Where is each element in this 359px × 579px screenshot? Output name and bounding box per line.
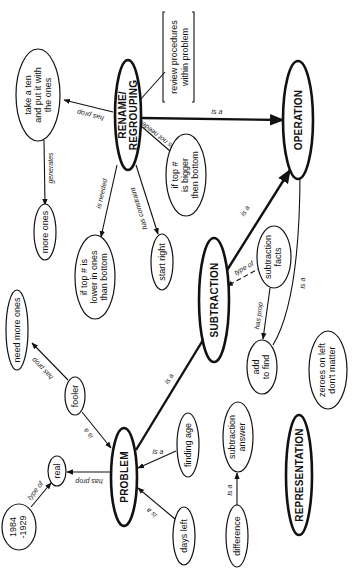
node-subtraction-answer: subtraction answer [223, 402, 253, 472]
node-add-to-find: add to find [247, 340, 277, 394]
edge-sub-facts-add-find [263, 288, 270, 339]
svg-text:fooler: fooler [70, 385, 80, 408]
edge-rename-take-ten [64, 100, 113, 112]
svg-text:PROBLEM: PROBLEM [119, 451, 130, 502]
node-fooler: fooler [65, 377, 85, 415]
node-top-bigger: if top # is bigger then bottom [166, 134, 206, 216]
edge-label-is-a: is a [163, 372, 175, 385]
node-problem: PROBLEM [111, 428, 137, 526]
edge-rename-operation [141, 118, 283, 120]
edge-label-is-a: is a [153, 448, 164, 455]
svg-text:facts: facts [273, 247, 283, 267]
svg-text:lower in ones: lower in ones [89, 250, 99, 304]
svg-text:finding age: finding age [183, 423, 193, 467]
edge-take-ten-more-ones [44, 140, 45, 205]
edge-label-has-prop: has prop [76, 108, 104, 122]
edge-label-is-a: is a [239, 204, 251, 217]
node-days-left: days left [173, 507, 195, 565]
edges: has prop is a is not needed is needed ha… [26, 72, 306, 519]
svg-text:REPRESENTATION: REPRESENTATION [294, 428, 305, 522]
edge-label-is-needed: is needed [95, 177, 109, 209]
edge-label-has-prop: has prop [75, 477, 102, 485]
node-difference: difference [226, 505, 248, 567]
node-finding-age: finding age [177, 413, 199, 477]
node-subtraction-facts: subtraction facts [257, 226, 291, 288]
svg-text:more ones: more ones [40, 210, 50, 253]
edge-label-generates: generates [47, 152, 55, 184]
node-zeroes-on-left: zeroes on left don't matter [309, 331, 347, 409]
svg-text:RENAME/: RENAME/ [117, 91, 128, 139]
svg-text:days left: days left [179, 519, 189, 553]
svg-text:take a ten: take a ten [23, 75, 33, 115]
svg-text:difference: difference [232, 516, 242, 555]
edge-review-rename [140, 72, 165, 100]
edge-label-type-of: type of [233, 259, 256, 277]
node-more-ones: more ones [34, 204, 56, 260]
node-top-lower: if top # is lower in ones than bottom [75, 235, 115, 319]
svg-text:the ones: the ones [43, 77, 53, 112]
node-need-more-ones: need more ones [6, 290, 28, 370]
svg-text:zeroes on left: zeroes on left [317, 342, 327, 397]
edge-label-is-a: is a [299, 277, 306, 288]
edge-label-has-prop: has prop [253, 302, 264, 330]
svg-text:1984: 1984 [8, 517, 18, 537]
svg-text:answer: answer [237, 422, 247, 451]
svg-text:than bottom: than bottom [99, 253, 109, 301]
node-operation: OPERATION [283, 61, 313, 179]
svg-text:to find: to find [261, 355, 271, 380]
svg-text:within problem: within problem [180, 28, 190, 87]
node-real: real [48, 456, 66, 486]
node-years: 1984 -1929 [2, 504, 36, 550]
svg-text:if top #: if top # [170, 161, 180, 188]
svg-text:real: real [52, 463, 62, 478]
svg-text:need more ones: need more ones [12, 297, 22, 363]
edge-label-is-a: is a [145, 507, 158, 519]
svg-text:don't matter: don't matter [327, 346, 337, 393]
edge-label-is-a: is a [226, 484, 233, 495]
edge-label-type-of: type of [26, 479, 46, 501]
svg-text:subtraction: subtraction [263, 235, 273, 279]
node-rename-regrouping: RENAME/ REGROUPING [115, 60, 141, 170]
node-take-ten: take a ten and put it with the ones [16, 49, 60, 141]
svg-text:SUBTRACTION: SUBTRACTION [209, 263, 220, 338]
svg-text:start right: start right [157, 243, 167, 281]
svg-text:is bigger: is bigger [180, 158, 190, 192]
edge-label-has-prop: has prop [30, 356, 55, 381]
edge-label-is-a: is a [212, 108, 223, 115]
svg-text:add: add [251, 359, 261, 374]
edge-label-is-a: is a [82, 427, 94, 440]
concept-map: has prop is a is not needed is needed ha… [0, 0, 359, 579]
svg-text:and put it with: and put it with [33, 67, 43, 123]
node-subtraction: SUBTRACTION [199, 238, 229, 362]
svg-text:OPERATION: OPERATION [293, 90, 304, 151]
svg-text:then bottom: then bottom [190, 151, 200, 199]
node-review-procedures: review procedures within problem [163, 12, 194, 102]
node-representation: REPRESENTATION [286, 415, 312, 535]
svg-text:subtraction: subtraction [227, 415, 237, 459]
svg-text:review procedures: review procedures [169, 20, 179, 94]
node-start-right: start right [151, 234, 173, 290]
nodes: RENAME/ REGROUPING take a ten and put it… [2, 12, 347, 567]
svg-text:if top # is: if top # is [79, 258, 89, 295]
svg-text:-1929: -1929 [18, 515, 28, 538]
svg-text:REGROUPING: REGROUPING [128, 80, 139, 150]
